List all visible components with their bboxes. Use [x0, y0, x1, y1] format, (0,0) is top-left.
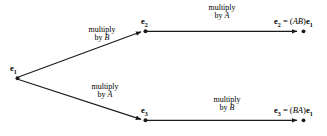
edge-caption-line2: by B — [201, 104, 253, 112]
node-label-e3: e3 — [141, 106, 148, 117]
result-vector: e2 — [274, 16, 281, 26]
node-label-e1: e1 — [10, 64, 17, 75]
result-vector: e3 — [274, 105, 281, 115]
result-equals: = ( — [281, 105, 293, 115]
terminal-dot-result-ab — [302, 29, 306, 33]
result-label-ab: e2 = (AB)e1 — [274, 17, 313, 28]
edge-caption-e1-to-e3: multiply by A — [79, 83, 131, 100]
node-label-e2: e2 — [141, 17, 148, 28]
node-dot-e1 — [16, 76, 20, 80]
result-operand: e1 — [306, 105, 313, 115]
result-matrix: BA — [293, 105, 303, 115]
edge-caption-e2-to-result-ab: multiply by A — [196, 4, 248, 21]
result-operand: e1 — [306, 16, 313, 26]
node-dot-e2 — [144, 29, 148, 33]
edge-caption-e3-to-result-ba: multiply by B — [201, 96, 253, 113]
edge-caption-line2: by B — [76, 34, 128, 42]
result-matrix: AB — [293, 16, 303, 26]
result-equals: = ( — [281, 16, 293, 26]
result-label-ba: e3 = (BA)e1 — [274, 106, 313, 117]
edge-caption-line2: by A — [196, 12, 248, 20]
matrix-order-diagram: e1 e2 e3 multiply by B multiply by A mul… — [0, 0, 327, 136]
edge-caption-e1-to-e2: multiply by B — [76, 26, 128, 43]
edge-caption-line2: by A — [79, 91, 131, 99]
terminal-dot-result-ba — [302, 118, 306, 122]
node-dot-e3 — [144, 118, 148, 122]
